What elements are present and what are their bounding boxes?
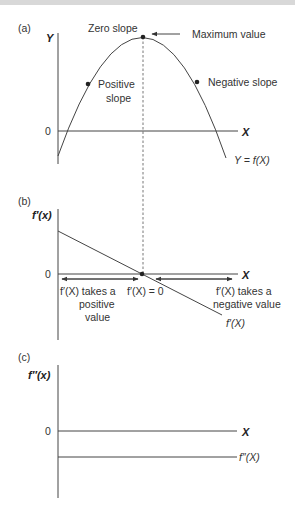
positive-value-label-line1: f′(X) takes a — [60, 285, 116, 297]
positive-slope-label-line1: Positive — [98, 78, 135, 90]
derivative-diagram: (a) Y 0 X Zero slope Maximum value Posit… — [0, 0, 295, 513]
panel-a-y-axis-label: Y — [46, 32, 55, 44]
function-curve — [58, 37, 226, 158]
maximum-value-label: Maximum value — [192, 28, 266, 40]
positive-value-label-line3: value — [85, 311, 110, 323]
zero-slope-label: Zero slope — [88, 22, 138, 34]
positive-slope-label-line2: slope — [106, 92, 131, 104]
negative-slope-point — [195, 80, 200, 85]
panel-a-x-axis-label: X — [241, 126, 250, 138]
panel-a: (a) Y 0 X Zero slope Maximum value Posit… — [18, 22, 278, 166]
panel-c-label: (c) — [18, 351, 30, 363]
first-derivative-zero-point — [140, 272, 145, 277]
panel-b: (b) f′(x) 0 X f′(X) takes a positive val… — [18, 195, 281, 340]
negative-value-label-line2: negative value — [213, 298, 281, 310]
second-derivative-label: f″(X) — [239, 451, 260, 463]
panel-b-label: (b) — [18, 195, 31, 207]
positive-value-label-line2: positive — [79, 298, 115, 310]
panel-c: (c) f″(x) 0 X f″(X) — [18, 351, 260, 498]
first-derivative-label: f′(X) — [226, 317, 245, 329]
function-curve-label: Y = f(X) — [234, 154, 270, 166]
panel-a-label: (a) — [18, 22, 31, 34]
panel-c-y-axis-label: f″(x) — [28, 369, 51, 381]
panel-b-x-axis-label: X — [241, 269, 250, 281]
panel-c-origin-label: 0 — [45, 425, 51, 437]
positive-slope-point — [86, 82, 91, 87]
panel-b-y-axis-label: f′(x) — [32, 209, 52, 221]
panel-a-origin-label: 0 — [45, 125, 51, 137]
negative-value-label-line1: f′(X) takes a — [216, 285, 272, 297]
panel-b-origin-label: 0 — [45, 268, 51, 280]
panel-c-x-axis-label: X — [241, 426, 250, 438]
negative-slope-label: Negative slope — [208, 76, 278, 88]
zero-derivative-label: f′(X) = 0 — [127, 285, 164, 297]
maximum-point — [141, 35, 146, 40]
